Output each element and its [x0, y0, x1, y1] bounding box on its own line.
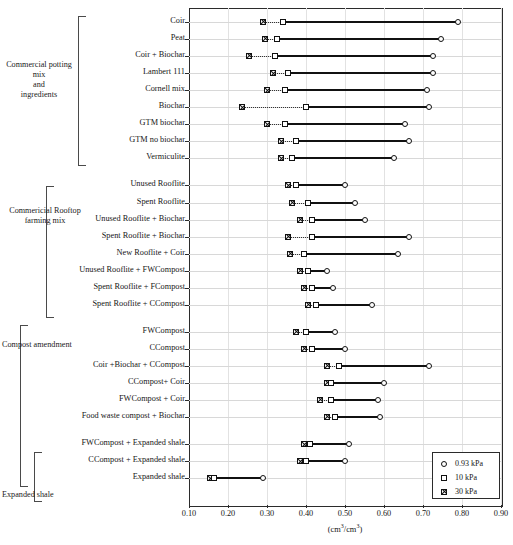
data-row: [0, 179, 513, 191]
segment-10-to-093: [306, 460, 345, 462]
x-tick-mark: [345, 505, 346, 508]
x-tick-label: 0.80: [447, 509, 477, 518]
legend-label: 30 kPa: [455, 487, 477, 496]
data-row: [0, 360, 513, 372]
marker-10kpa: [303, 329, 309, 335]
marker-30kpa: [246, 53, 252, 59]
segment-10-to-093: [310, 443, 349, 445]
x-tick-label: 0.60: [369, 509, 399, 518]
marker-30kpa: [270, 70, 276, 76]
data-row: [0, 343, 513, 355]
segment-10-to-093: [296, 140, 409, 142]
data-row: [0, 326, 513, 338]
legend-label: 10 kPa: [455, 473, 477, 482]
marker-10kpa: [303, 458, 309, 464]
x-tick-label: 0.30: [252, 509, 282, 518]
marker-093kpa: [426, 104, 432, 110]
legend-symbol-square: [441, 475, 447, 481]
marker-30kpa: [297, 217, 303, 223]
marker-30kpa: [264, 87, 270, 93]
x-tick-mark: [384, 505, 385, 508]
segment-10-to-093: [283, 21, 459, 23]
data-row: [0, 16, 513, 28]
x-tick-label: 0.50: [330, 509, 360, 518]
x-tick-mark: [267, 505, 268, 508]
data-row: [0, 50, 513, 62]
marker-30kpa: [262, 36, 268, 42]
marker-10kpa: [274, 36, 280, 42]
marker-30kpa: [239, 104, 245, 110]
marker-093kpa: [430, 53, 436, 59]
marker-10kpa: [282, 121, 288, 127]
data-row: [0, 248, 513, 260]
x-tick-label: 0.20: [213, 509, 243, 518]
marker-093kpa: [330, 285, 336, 291]
segment-10-to-093: [335, 416, 380, 418]
data-row: [0, 438, 513, 450]
marker-30kpa: [278, 155, 284, 161]
x-tick-mark: [306, 505, 307, 508]
segment-10-to-093: [306, 331, 335, 333]
marker-10kpa: [211, 475, 217, 481]
x-tick-label: 0.70: [408, 509, 438, 518]
segment-10-to-093: [285, 89, 427, 91]
marker-093kpa: [424, 87, 430, 93]
data-row: [0, 282, 513, 294]
segment-10-to-093: [312, 348, 345, 350]
marker-10kpa: [307, 441, 313, 447]
figure-root: Commercial potting mix and ingredients C…: [0, 0, 513, 545]
marker-093kpa: [391, 155, 397, 161]
marker-30kpa: [287, 251, 293, 257]
data-row: [0, 299, 513, 311]
marker-30kpa: [305, 302, 311, 308]
data-row: [0, 67, 513, 79]
marker-093kpa: [375, 397, 381, 403]
data-row: [0, 197, 513, 209]
x-tick-mark: [501, 505, 502, 508]
segment-10-to-093: [304, 253, 398, 255]
data-row: [0, 265, 513, 277]
marker-30kpa: [264, 121, 270, 127]
x-tick-mark: [189, 505, 190, 508]
marker-10kpa: [336, 363, 342, 369]
x-tick-mark: [462, 505, 463, 508]
marker-10kpa: [303, 104, 309, 110]
x-tick-label: 0.40: [291, 509, 321, 518]
segment-10-to-093: [288, 72, 432, 74]
marker-093kpa: [395, 251, 401, 257]
marker-30kpa: [324, 363, 330, 369]
segment-10-to-093: [285, 123, 406, 125]
x-tick-mark: [423, 505, 424, 508]
legend-symbol-xsquare: [441, 489, 447, 495]
marker-30kpa: [260, 19, 266, 25]
marker-10kpa: [328, 397, 334, 403]
marker-10kpa: [280, 19, 286, 25]
marker-30kpa: [324, 414, 330, 420]
marker-10kpa: [293, 138, 299, 144]
marker-093kpa: [406, 234, 412, 240]
marker-093kpa: [346, 441, 352, 447]
marker-10kpa: [282, 87, 288, 93]
marker-10kpa: [309, 285, 315, 291]
legend: 0.93 kPa10 kPa30 kPa: [432, 452, 500, 499]
segment-10-to-093: [296, 184, 345, 186]
segment-10-to-093: [331, 382, 384, 384]
segment-10-to-093: [312, 219, 365, 221]
marker-093kpa: [362, 217, 368, 223]
marker-093kpa: [438, 36, 444, 42]
segment-30-to-10: [242, 107, 306, 108]
segment-10-to-093: [308, 202, 355, 204]
marker-093kpa: [426, 363, 432, 369]
segment-10-to-093: [312, 236, 410, 238]
legend-symbol-circle: [441, 461, 447, 467]
marker-30kpa: [301, 285, 307, 291]
data-row: [0, 231, 513, 243]
group-label-expanded-shale: Expanded shale: [2, 490, 76, 500]
marker-30kpa: [285, 182, 291, 188]
segment-10-to-093: [316, 304, 373, 306]
marker-10kpa: [293, 182, 299, 188]
segment-10-to-093: [292, 157, 393, 159]
marker-093kpa: [406, 138, 412, 144]
marker-10kpa: [289, 155, 295, 161]
data-row: [0, 101, 513, 113]
